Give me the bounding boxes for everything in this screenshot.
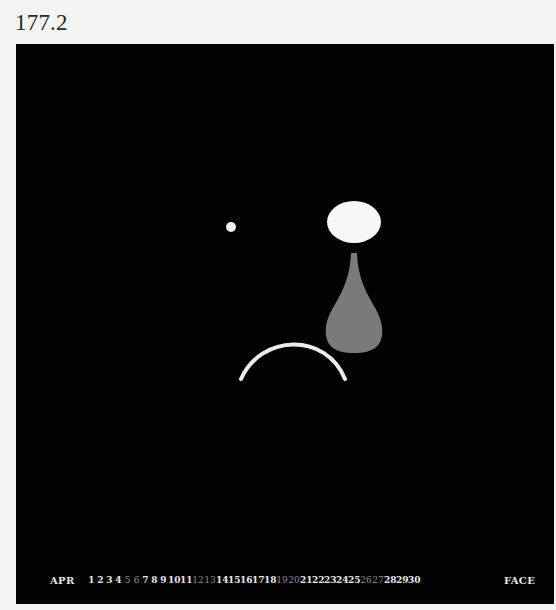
day-number: 16 xyxy=(240,575,252,585)
day-number: 21 xyxy=(300,575,312,585)
day-number: 7 xyxy=(141,575,150,585)
day-number: 10 xyxy=(168,575,180,585)
day-strip: 1234567891011121314151617181920212223242… xyxy=(87,575,420,585)
frown-mouth xyxy=(241,344,345,379)
day-number: 8 xyxy=(150,575,159,585)
day-number: 14 xyxy=(216,575,228,585)
tear-drop xyxy=(326,253,383,353)
right-eye-ellipse xyxy=(327,201,381,243)
day-number: 20 xyxy=(288,575,300,585)
day-number: 25 xyxy=(348,575,360,585)
day-number: 22 xyxy=(312,575,324,585)
day-number: 3 xyxy=(105,575,114,585)
day-number: 6 xyxy=(132,575,141,585)
face-figure-frame: APR 123456789101112131415161718192021222… xyxy=(16,44,554,604)
day-number: 29 xyxy=(396,575,408,585)
day-number: 1 xyxy=(87,575,96,585)
day-number: 27 xyxy=(372,575,384,585)
day-number: 30 xyxy=(408,575,420,585)
left-eye-dot xyxy=(226,222,236,232)
plate-number: 177.2 xyxy=(15,10,68,36)
day-number: 17 xyxy=(252,575,264,585)
day-number: 24 xyxy=(336,575,348,585)
day-number: 12 xyxy=(192,575,204,585)
day-number: 13 xyxy=(204,575,216,585)
day-number: 15 xyxy=(228,575,240,585)
day-number: 11 xyxy=(180,575,192,585)
day-number: 23 xyxy=(324,575,336,585)
calendar-caption: APR 123456789101112131415161718192021222… xyxy=(16,572,554,592)
day-number: 28 xyxy=(384,575,396,585)
day-number: 5 xyxy=(123,575,132,585)
day-number: 18 xyxy=(264,575,276,585)
day-number: 9 xyxy=(159,575,168,585)
day-number: 2 xyxy=(96,575,105,585)
face-label: FACE xyxy=(504,575,535,586)
day-number: 4 xyxy=(114,575,123,585)
month-label: APR xyxy=(50,575,75,586)
day-number: 26 xyxy=(360,575,372,585)
sad-face-drawing xyxy=(16,44,554,604)
day-number: 19 xyxy=(276,575,288,585)
